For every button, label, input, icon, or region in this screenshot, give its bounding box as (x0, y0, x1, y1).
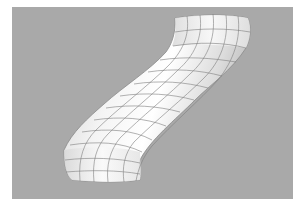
swept-tube-surface (0, 0, 299, 208)
bottom-flare (64, 147, 141, 182)
